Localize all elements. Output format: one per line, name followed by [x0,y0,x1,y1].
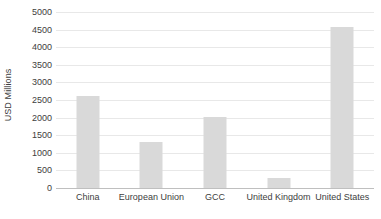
y-axis-tick-labels: 5000450040003500300025002000150010005000 [14,12,52,188]
bar [76,96,99,188]
bar [203,117,226,188]
x-tick-label: United States [315,192,369,203]
x-tick-label: United Kingdom [247,192,311,203]
y-tick-label: 500 [18,166,52,175]
bar-slot [310,12,374,188]
x-tick-label: China [76,192,100,203]
bar [331,27,354,188]
bar [140,142,163,188]
x-tick-label: European Union [119,192,184,203]
y-tick-label: 2000 [18,114,52,123]
bar [267,178,290,188]
bar-slot [120,12,184,188]
y-tick-label: 3000 [18,78,52,87]
y-tick-label: 0 [18,184,52,193]
bar-slot [56,12,120,188]
y-tick-label: 2500 [18,96,52,105]
y-tick-label: 3500 [18,61,52,70]
x-tick-label: GCC [205,192,225,203]
x-axis-tick-labels: ChinaEuropean UnionGCCUnited KingdomUnit… [56,192,374,212]
x-axis-line [56,188,374,189]
y-tick-label: 4000 [18,43,52,52]
y-tick-label: 5000 [18,8,52,17]
y-axis-title-text: USD Millions [3,69,13,122]
bar-slot [183,12,247,188]
bar-slot [247,12,311,188]
y-tick-label: 4500 [18,26,52,35]
bar-chart: USD Millions 500045004000350030002500200… [0,0,381,219]
bars-layer [56,12,374,188]
y-tick-label: 1500 [18,131,52,140]
y-tick-label: 1000 [18,149,52,158]
